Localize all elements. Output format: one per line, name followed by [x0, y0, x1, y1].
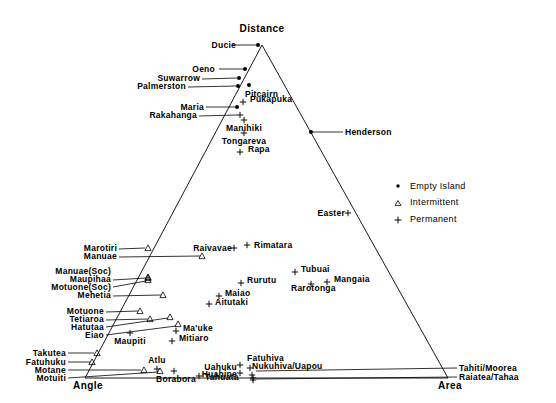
legend-entry-permanent: Permanent [410, 214, 457, 224]
point-label-nukuhiva-uapou: Nukuhiva/Uapou [252, 361, 323, 371]
leader-line-motuone-soc [113, 281, 146, 287]
leader-line-eiao [106, 326, 176, 335]
vertex-label-distance: Distance [240, 24, 285, 34]
point-label-pukapuka: Pukapuka [250, 94, 292, 104]
marker-plus-mitiaro [169, 338, 175, 344]
vertex-label-area: Area [438, 381, 462, 391]
marker-plus-nukuhiva-uapou [249, 372, 255, 378]
point-label-manihiki: Manihiki [226, 123, 262, 133]
point-label-atlu: Atlu [148, 355, 166, 365]
marker-dot-henderson [309, 130, 313, 134]
leader-line-rakahanga [199, 115, 237, 116]
leader-line-marotiri [119, 248, 145, 249]
marker-dot-oeno [243, 67, 247, 71]
marker-triangle-hatutaa [167, 314, 173, 320]
point-label-easter: Easter [318, 208, 346, 218]
point-label-maupiti: Maupiti [114, 336, 146, 346]
leader-line-manuae [119, 256, 200, 257]
marker-plus-tubuai [292, 269, 298, 275]
marker-dot-pitcairn [247, 83, 251, 87]
marker-plus-rapa [237, 149, 243, 155]
point-label-mitiaro: Mitiaro [179, 333, 209, 343]
point-label-tubuai: Tubuai [301, 264, 330, 274]
marker-triangle-motane [141, 367, 147, 373]
point-label-manuae: Manuae [84, 251, 117, 261]
leader-line-tetiaroa [106, 319, 148, 320]
point-label-raiatea-tahaa: Raiatea/Tahaa [459, 372, 519, 382]
leader-line-motuone [106, 311, 138, 312]
legend-entry-intermittent: Intermittent [410, 197, 459, 207]
marker-dot-suwarrow [237, 76, 241, 80]
point-label-rimatara: Rimatara [254, 240, 292, 250]
vertex-label-angle: Angle [73, 381, 103, 391]
leader-line-palmerston [188, 86, 236, 87]
point-label-rurutu: Rurutu [247, 275, 276, 285]
ternary-plot-figure: Distance Angle Area Empty Island Intermi… [0, 0, 556, 403]
legend-entry-empty-island: Empty Island [410, 181, 466, 191]
marker-plus-rimatara [244, 242, 250, 248]
point-label-mangaia: Mangaia [334, 274, 370, 284]
point-label-rakahanga: Rakahanga [149, 110, 197, 120]
legend-markers [395, 184, 402, 223]
point-label-henderson: Henderson [345, 127, 392, 137]
point-label-ma-uke: Ma'uke [183, 323, 213, 333]
point-label-borabora: Borabora [156, 374, 196, 384]
marker-dot-palmerston [236, 84, 240, 88]
point-label-raivavae: Raivavae [193, 243, 232, 253]
point-label-rarotonga: Rarotonga [291, 283, 336, 293]
marker-plus-rurutu [238, 280, 244, 286]
point-label-eiao: Eiao [85, 330, 104, 340]
marker-dot-ducie [256, 43, 260, 47]
point-label-aitutaki: Aitutaki [215, 297, 248, 307]
marker-plus-rakahanga [237, 112, 243, 118]
point-label-motuiti: Motuiti [36, 373, 66, 383]
marker-dot-maria [235, 105, 239, 109]
point-label-mehetia: Mehetia [78, 290, 111, 300]
marker-plus-uahuku [237, 362, 243, 368]
marker-plus-pukapuka [240, 99, 246, 105]
point-label-huahine: Huahine [202, 369, 237, 379]
marker-triangle-marotiri [145, 245, 151, 251]
leader-line-maupihaa [113, 278, 146, 280]
leader-line-suwarrow [202, 78, 237, 79]
marker-plus-atlu [154, 366, 160, 372]
point-label-ducie: Ducie [212, 40, 236, 50]
point-label-palmerston: Palmerston [137, 81, 186, 91]
marker-plus-easter [345, 210, 351, 216]
point-label-rapa: Rapa [248, 144, 270, 154]
plot-canvas [0, 0, 556, 403]
marker-plus-aitutaki [206, 301, 212, 307]
leader-line-mehetia [113, 295, 161, 296]
